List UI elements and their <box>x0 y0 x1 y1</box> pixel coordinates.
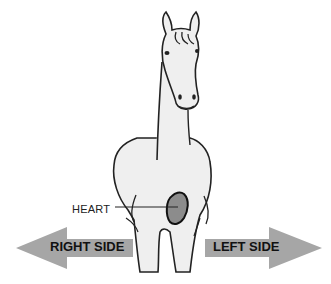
horse-heart-diagram: HEART RIGHT SIDE LEFT SIDE <box>0 0 331 284</box>
horse-eye-left <box>165 51 170 55</box>
horse-eye-right <box>195 49 199 53</box>
right-side-label: RIGHT SIDE <box>50 239 124 254</box>
heart-label: HEART <box>72 203 110 215</box>
left-side-label: LEFT SIDE <box>213 239 279 254</box>
